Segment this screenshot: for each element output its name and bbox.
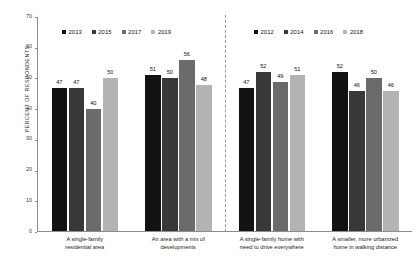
bar-value-label: 49 — [277, 73, 283, 79]
legend-left: 2013201520172019 — [62, 29, 171, 35]
bar-slot: 51 — [290, 17, 306, 232]
bar-slot: 46 — [383, 17, 399, 232]
legend-label: 2012 — [261, 29, 274, 35]
legend-label: 2014 — [290, 29, 303, 35]
legend-item-2013[interactable]: 2013 — [62, 29, 82, 35]
y-axis-tick-label: 0 — [29, 228, 32, 234]
bar[interactable]: 40 — [86, 109, 102, 232]
bar-slot: 51 — [145, 17, 161, 232]
legend-swatch-icon — [122, 30, 126, 34]
y-axis-ticks: 706050403020100 — [0, 17, 37, 232]
bar-slot: 47 — [239, 17, 255, 232]
bar-value-label: 56 — [184, 51, 190, 57]
legend-item-2019[interactable]: 2019 — [151, 29, 171, 35]
bar-value-label: 50 — [371, 69, 377, 75]
bar-value-label: 47 — [73, 79, 79, 85]
bar-group: 51505648 — [132, 17, 226, 232]
bar-group: 52465046 — [319, 17, 413, 232]
legend-item-2016[interactable]: 2016 — [314, 29, 334, 35]
y-axis-tick-mark — [35, 17, 38, 18]
bar-value-label: 51 — [150, 66, 156, 72]
y-axis-tick-label: 70 — [26, 13, 32, 19]
y-axis-tick-label: 50 — [26, 74, 32, 80]
bar-chart: PERCENT OF RESPONDENTS 706050403020100 4… — [0, 0, 416, 274]
legend-swatch-icon — [92, 30, 96, 34]
bar[interactable]: 46 — [383, 91, 399, 232]
legend-item-2015[interactable]: 2015 — [92, 29, 112, 35]
bar-value-label: 47 — [243, 79, 249, 85]
y-axis-tick-mark — [35, 232, 38, 233]
legend-swatch-icon — [62, 30, 66, 34]
legend-swatch-icon — [254, 30, 258, 34]
y-axis-tick-label: 30 — [26, 135, 32, 141]
legend-label: 2016 — [320, 29, 333, 35]
y-axis-tick-mark — [35, 171, 38, 172]
bar-value-label: 46 — [354, 82, 360, 88]
y-axis-tick-label: 10 — [26, 197, 32, 203]
x-axis-category-label: An area with a mix ofdevelopments — [132, 236, 226, 272]
bar-slot: 52 — [256, 17, 272, 232]
legend-label: 2013 — [69, 29, 82, 35]
bar-slot: 50 — [103, 17, 119, 232]
bar-group: 47524951 — [225, 17, 319, 232]
legend-swatch-icon — [151, 30, 155, 34]
x-axis-labels: A single-familyresidential areaAn area w… — [38, 236, 412, 272]
bar-value-label: 48 — [201, 76, 207, 82]
bar[interactable]: 48 — [196, 85, 212, 232]
bar-slot: 52 — [332, 17, 348, 232]
bar[interactable]: 50 — [103, 78, 119, 232]
bar[interactable]: 50 — [162, 78, 178, 232]
plot-area: 47474050515056484752495152465046 — [38, 17, 412, 232]
y-axis-tick-mark — [35, 140, 38, 141]
bar[interactable]: 51 — [145, 75, 161, 232]
bar-value-label: 46 — [388, 82, 394, 88]
legend-swatch-icon — [284, 30, 288, 34]
legend-swatch-icon — [314, 30, 318, 34]
legend-item-2018[interactable]: 2018 — [343, 29, 363, 35]
bar[interactable]: 52 — [332, 72, 348, 232]
bar-value-label: 52 — [260, 63, 266, 69]
bar[interactable]: 47 — [69, 88, 85, 232]
bar-slot: 50 — [366, 17, 382, 232]
section-divider — [225, 15, 226, 232]
legend-item-2014[interactable]: 2014 — [284, 29, 304, 35]
bar[interactable]: 47 — [52, 88, 68, 232]
y-axis-tick-mark — [35, 201, 38, 202]
bar[interactable]: 46 — [349, 91, 365, 232]
legend-swatch-icon — [343, 30, 347, 34]
bar-value-label: 51 — [294, 66, 300, 72]
bar-value-label: 50 — [107, 69, 113, 75]
bar[interactable]: 49 — [273, 82, 289, 233]
legend-right: 2012201420162018 — [254, 29, 363, 35]
bar-value-label: 50 — [167, 69, 173, 75]
bar[interactable]: 51 — [290, 75, 306, 232]
legend-item-2017[interactable]: 2017 — [122, 29, 142, 35]
y-axis-tick-label: 20 — [26, 166, 32, 172]
legend-item-2012[interactable]: 2012 — [254, 29, 274, 35]
y-axis-tick-label: 40 — [26, 105, 32, 111]
y-axis-tick-mark — [35, 48, 38, 49]
x-axis-category-label: A single-family home withneed to drive e… — [225, 236, 319, 272]
chart-half-left: 4747405051505648 — [38, 17, 225, 232]
x-label-half: A single-familyresidential areaAn area w… — [38, 236, 225, 272]
x-axis-category-label: A single-familyresidential area — [38, 236, 132, 272]
bar-value-label: 52 — [337, 63, 343, 69]
legend-label: 2019 — [158, 29, 171, 35]
chart-half-right: 4752495152465046 — [225, 17, 412, 232]
bar[interactable]: 47 — [239, 88, 255, 232]
bar[interactable]: 56 — [179, 60, 195, 232]
y-axis-tick-mark — [35, 109, 38, 110]
y-axis-tick-mark — [35, 78, 38, 79]
bar-value-label: 47 — [56, 79, 62, 85]
x-label-half: A single-family home withneed to drive e… — [225, 236, 412, 272]
bar-slot: 40 — [86, 17, 102, 232]
bar-slot: 46 — [349, 17, 365, 232]
bar[interactable]: 50 — [366, 78, 382, 232]
bar-slot: 47 — [69, 17, 85, 232]
bar-slot: 56 — [179, 17, 195, 232]
bar-slot: 50 — [162, 17, 178, 232]
bar-group: 47474050 — [38, 17, 132, 232]
bar-slot: 48 — [196, 17, 212, 232]
y-axis-tick-label: 60 — [26, 43, 32, 49]
bar[interactable]: 52 — [256, 72, 272, 232]
